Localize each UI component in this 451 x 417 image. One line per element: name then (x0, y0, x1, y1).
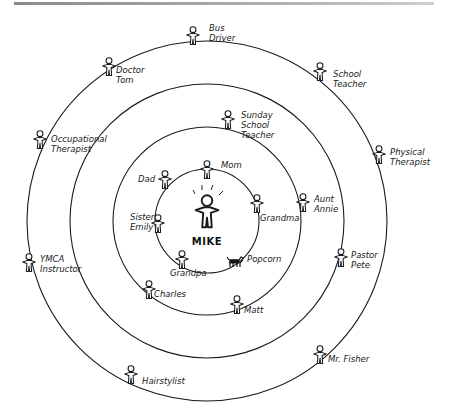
person-label: Matt (244, 305, 264, 315)
person-label: School (241, 120, 270, 130)
person-icon (251, 195, 264, 213)
center-person-label: MIKE (192, 236, 222, 247)
person-hairstylist: Hairstylist (125, 366, 186, 386)
person-grandma: Grandma (251, 195, 300, 223)
person-label: Pete (351, 260, 370, 270)
people: MomDadGrandmaSisterEmilyGrandpaPopcornSu… (23, 23, 431, 386)
emphasis-ray (219, 191, 223, 195)
person-label: Doctor (116, 65, 145, 75)
person-icon (314, 346, 327, 364)
person-label: Therapist (51, 144, 92, 154)
person-charles: Charles (143, 281, 187, 299)
person-icon (222, 111, 235, 129)
person-label: Annie (313, 204, 338, 214)
person-label: Teacher (241, 130, 275, 140)
person-icon (231, 296, 244, 314)
person-label: Dad (138, 174, 156, 184)
person-label: YMCA (40, 254, 64, 264)
person-icon (34, 131, 47, 149)
person-physical: PhysicalTherapist (373, 146, 431, 167)
person-matt: Matt (231, 296, 264, 315)
relationship-circles-diagram: MIKE MomDadGrandmaSisterEmilyGrandpaPopc… (0, 0, 451, 417)
person-label: Sister (130, 212, 155, 222)
person-icon (176, 251, 189, 269)
person-school: SchoolTeacher (314, 63, 367, 89)
person-label: Sunday (241, 110, 274, 120)
person-label: Charles (154, 289, 187, 299)
person-label: Physical (390, 147, 425, 157)
person-icon (201, 161, 214, 179)
dog-icon (227, 257, 243, 267)
person-label: Bus (209, 23, 225, 33)
person-label: Occupational (51, 134, 108, 144)
person-label: Mom (221, 160, 242, 170)
person-label: Therapist (390, 157, 431, 167)
person-label: Hairstylist (142, 376, 185, 386)
person-label: Instructor (40, 264, 82, 274)
person-label: Pastor (351, 250, 378, 260)
person-icon (373, 146, 386, 164)
person-label: Popcorn (247, 254, 281, 264)
person-label: Mr. Fisher (328, 354, 370, 364)
person-label: Aunt (313, 194, 335, 204)
person-pastor: PastorPete (335, 249, 379, 270)
person-mr-fisher: Mr. Fisher (314, 346, 370, 364)
person-label: Tom (116, 75, 134, 85)
person-label: Grandma (260, 213, 300, 223)
emphasis-ray (193, 190, 195, 194)
person-icon (125, 366, 138, 384)
person-sunday: SundaySchoolTeacher (222, 110, 275, 140)
person-label: Grandpa (170, 268, 207, 278)
person-icon (297, 194, 310, 212)
person-label: School (333, 69, 362, 79)
person-sister: SisterEmily (130, 212, 164, 232)
center-person: MIKE (192, 185, 223, 247)
person-ymca: YMCAInstructor (23, 254, 82, 274)
person-aunt: AuntAnnie (297, 194, 338, 214)
person-label: Driver (209, 33, 236, 43)
person-mom: Mom (201, 160, 242, 178)
person-grandpa: Grandpa (170, 251, 207, 278)
person-label: Teacher (333, 79, 367, 89)
person-bus: BusDriver (187, 23, 236, 44)
center-person-figure (196, 195, 219, 227)
person-label: Emily (130, 222, 154, 232)
emphasis-ray (211, 185, 213, 190)
person-dad: Dad (138, 171, 171, 189)
